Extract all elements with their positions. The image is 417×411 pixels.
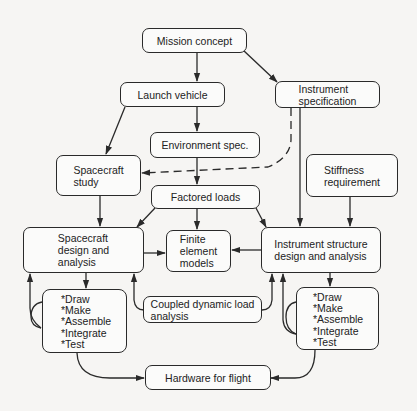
edge-instrument-steps-loop xyxy=(283,274,296,334)
node-instrument-specification: Instrument specification xyxy=(275,81,380,108)
node-spacecraft-study: Spacecraft study xyxy=(56,155,141,196)
edge-instrument-steps-to-hardware xyxy=(271,350,315,378)
node-spacecraft-design-and-analysis: Spacecraft design and analysis xyxy=(23,227,144,273)
instrument-steps-box: *Draw *Make *Assemble *Integrate *Test xyxy=(296,287,379,350)
node-hardware-for-flight: Hardware for flight xyxy=(145,365,271,390)
node-launch-vehicle: Launch vehicle xyxy=(120,82,225,107)
edge-mission-to-instrument-spec xyxy=(243,50,277,82)
node-label: Spacecraft design and analysis xyxy=(58,232,109,268)
node-coupled-dynamic-load-analysis: Coupled dynamic load analysis xyxy=(143,296,262,323)
edge-launch-to-spacecraft-study xyxy=(106,107,125,154)
instrument-steps-bump xyxy=(286,302,296,334)
node-instrument-structure-design: Instrument structure design and analysis xyxy=(261,227,381,273)
node-label: Factored loads xyxy=(171,191,240,203)
step-test: *Test xyxy=(61,339,126,350)
node-label: Spacecraft study xyxy=(73,164,123,188)
node-label: Stiffness requirement xyxy=(324,164,380,188)
node-mission-concept: Mission concept xyxy=(142,28,247,53)
step-assemble: *Assemble xyxy=(61,316,126,327)
node-environment-spec: Environment spec. xyxy=(150,132,260,158)
node-label: Finite element models xyxy=(180,233,217,269)
spacecraft-steps-box: *Draw *Make *Assemble *Integrate *Test xyxy=(42,289,127,353)
node-label: Environment spec. xyxy=(162,139,249,151)
edge-spacecraft-steps-to-hardware xyxy=(77,353,144,378)
node-label: Coupled dynamic load analysis xyxy=(151,298,255,322)
step-assemble: *Assemble xyxy=(313,314,378,325)
node-label: Instrument structure design and analysis xyxy=(274,238,367,262)
node-factored-loads: Factored loads xyxy=(151,185,260,209)
edge-factored-to-instrument-structure xyxy=(256,208,266,227)
flowchart-diagram: Mission concept Launch vehicle Instrumen… xyxy=(0,0,417,411)
node-stiffness-requirement: Stiffness requirement xyxy=(306,154,398,197)
node-label: Hardware for flight xyxy=(165,372,251,384)
node-label: Launch vehicle xyxy=(137,89,207,101)
edge-coupled-to-instrument-structure xyxy=(262,274,272,310)
edge-factored-to-spacecraft-design xyxy=(137,208,155,227)
node-label: Instrument specification xyxy=(299,83,357,107)
step-test: *Test xyxy=(313,337,378,348)
node-finite-element-models: Finite element models xyxy=(166,230,231,272)
node-label: Mission concept xyxy=(157,35,232,47)
